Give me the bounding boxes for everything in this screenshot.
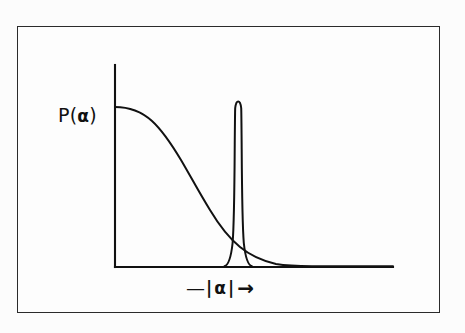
figure-root: P(α) —|α|→ bbox=[0, 0, 465, 333]
y-axis-label-prefix: P( bbox=[58, 104, 77, 126]
right-arrow-icon: → bbox=[237, 276, 254, 300]
figure-border-frame bbox=[17, 26, 440, 313]
long-dash-icon: — bbox=[186, 277, 203, 299]
y-axis-label-suffix: ) bbox=[89, 104, 97, 126]
y-axis-label: P(α) bbox=[58, 104, 97, 126]
modulus-bar-right: | bbox=[228, 278, 234, 298]
modulus-bar-left: | bbox=[206, 278, 212, 298]
alpha-symbol-y: α bbox=[77, 106, 89, 126]
x-axis-label: —|α|→ bbox=[186, 276, 254, 300]
alpha-symbol-x: α bbox=[214, 278, 226, 298]
